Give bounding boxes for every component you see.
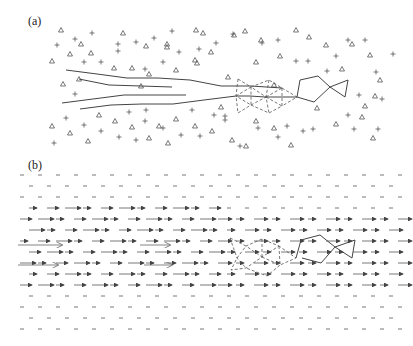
panel-a-solid-chains — [62, 70, 297, 109]
cross-marker — [363, 38, 368, 43]
cross-marker — [301, 129, 306, 134]
triangle-marker — [144, 44, 149, 49]
triangle-marker — [174, 117, 179, 122]
triangle-marker — [278, 54, 283, 59]
cross-marker — [55, 43, 60, 48]
cross-marker — [116, 49, 121, 54]
cross-marker — [117, 135, 122, 140]
cross-marker — [134, 138, 139, 143]
triangle-marker — [363, 104, 368, 109]
triangle-marker — [289, 143, 294, 148]
triangle-marker — [130, 66, 135, 71]
cross-marker — [260, 41, 265, 46]
cross-marker — [127, 110, 132, 115]
cross-marker — [198, 134, 203, 139]
cross-marker — [143, 119, 148, 124]
triangle-marker — [89, 51, 94, 56]
triangle-marker — [50, 124, 55, 129]
cross-marker — [99, 129, 104, 134]
figure-canvas — [0, 0, 413, 346]
cross-marker — [64, 116, 69, 121]
triangle-marker — [68, 52, 73, 57]
cross-marker — [223, 114, 228, 119]
triangle-marker — [259, 38, 264, 43]
triangle-marker — [86, 139, 91, 144]
triangle-marker — [209, 50, 214, 55]
cross-marker — [306, 59, 311, 64]
triangle-marker — [324, 43, 329, 48]
cross-marker — [73, 92, 78, 97]
triangle-marker — [61, 82, 66, 87]
triangle-marker — [232, 33, 237, 38]
cross-marker — [144, 108, 149, 113]
cross-marker — [311, 127, 316, 132]
cross-marker — [52, 141, 57, 146]
triangle-marker — [254, 119, 259, 124]
triangle-marker — [68, 131, 73, 136]
cross-marker — [380, 97, 385, 102]
triangle-marker — [230, 138, 235, 143]
triangle-marker — [166, 141, 171, 146]
triangle-marker — [210, 129, 215, 134]
cross-marker — [90, 31, 95, 36]
triangle-marker — [121, 31, 126, 36]
triangle-marker — [195, 61, 200, 66]
triangle-marker — [157, 124, 162, 129]
triangle-marker — [334, 122, 339, 127]
cross-marker — [256, 126, 261, 131]
triangle-marker — [272, 126, 277, 131]
cross-marker — [82, 60, 87, 65]
cross-marker — [82, 123, 87, 128]
triangle-marker — [315, 106, 320, 111]
cross-marker — [212, 113, 217, 118]
triangle-marker — [193, 124, 198, 129]
triangle-marker — [50, 59, 55, 64]
triangle-marker — [79, 42, 84, 47]
triangle-marker — [77, 77, 82, 82]
triangle-marker — [360, 115, 365, 120]
triangle-marker — [147, 72, 152, 77]
triangle-marker — [194, 28, 199, 33]
cross-marker — [276, 135, 281, 140]
cross-marker — [231, 32, 236, 37]
cross-marker — [391, 52, 396, 57]
panel-a-triangle-markers — [50, 28, 383, 149]
cross-marker — [346, 38, 351, 43]
cross-marker — [161, 60, 166, 65]
panel-b-dashed-cluster — [230, 238, 296, 276]
triangle-marker — [130, 125, 135, 130]
triangle-marker — [59, 28, 64, 33]
cross-marker — [346, 113, 351, 118]
triangle-marker — [219, 105, 224, 110]
cross-marker — [177, 50, 182, 55]
triangle-marker — [294, 28, 299, 33]
cross-marker — [285, 124, 290, 129]
triangle-marker — [226, 75, 231, 80]
cross-marker — [134, 40, 139, 45]
triangle-marker — [340, 67, 345, 72]
triangle-marker — [243, 29, 248, 34]
cross-marker — [376, 127, 381, 132]
triangle-marker — [307, 35, 312, 40]
cross-marker — [99, 60, 104, 65]
cross-marker — [276, 38, 281, 43]
cross-marker — [197, 47, 202, 52]
cross-marker — [334, 54, 339, 59]
triangle-marker — [112, 66, 117, 71]
cross-marker — [73, 37, 78, 42]
cross-marker — [143, 67, 148, 72]
triangle-marker — [174, 68, 179, 73]
triangle-marker — [350, 42, 355, 47]
cross-marker — [325, 69, 330, 74]
triangle-marker — [244, 144, 249, 149]
cross-marker — [238, 144, 243, 149]
panel-b-solid-loop — [296, 235, 355, 263]
triangle-marker — [97, 113, 102, 118]
triangle-marker — [147, 136, 152, 141]
triangle-marker — [113, 119, 118, 124]
triangle-marker — [201, 31, 206, 36]
triangle-marker — [378, 78, 383, 83]
cross-marker — [357, 93, 362, 98]
cross-marker — [179, 133, 184, 138]
triangle-marker — [373, 94, 378, 99]
